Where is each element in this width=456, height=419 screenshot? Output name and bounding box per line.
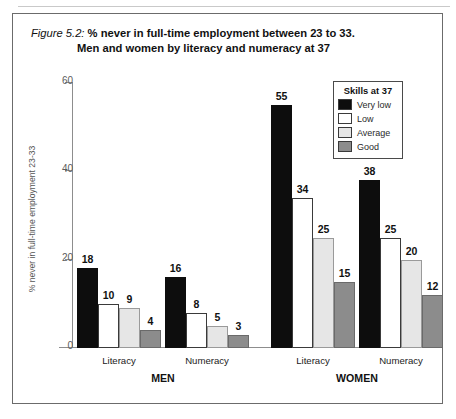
plot-area: 60 40 20 0 % never in full-time employme… <box>13 14 444 405</box>
page-header-rule <box>18 6 450 7</box>
bar-men-literacy-average <box>119 308 140 348</box>
legend-item-average[interactable]: Average <box>338 126 398 139</box>
legend-title: Skills at 37 <box>338 85 398 96</box>
legend-item-low[interactable]: Low <box>338 112 398 125</box>
x-group-label-women: WOMEN <box>307 372 407 384</box>
bar-men-literacy-good <box>140 330 161 348</box>
legend-swatch-very-low-icon <box>338 99 352 110</box>
bar-label-women-numeracy-very-low: 38 <box>359 165 380 177</box>
bar-women-literacy-average <box>313 238 334 348</box>
bar-label-women-literacy-average: 25 <box>313 223 334 235</box>
bar-label-men-literacy-low: 10 <box>98 289 119 301</box>
bar-men-numeracy-very-low <box>165 277 186 348</box>
bar-label-women-numeracy-good: 12 <box>422 280 443 292</box>
bar-women-literacy-good <box>334 282 355 348</box>
x-group-label-men: MEN <box>113 372 213 384</box>
bar-men-numeracy-low <box>186 313 207 348</box>
bar-label-women-literacy-good: 15 <box>334 267 355 279</box>
bar-label-women-literacy-low: 34 <box>292 183 313 195</box>
bar-label-men-literacy-average: 9 <box>119 293 140 305</box>
legend-item-very-low[interactable]: Very low <box>338 98 398 111</box>
bar-men-literacy-very-low <box>77 268 98 348</box>
bar-women-numeracy-very-low <box>359 180 380 348</box>
bar-men-numeracy-average <box>207 326 228 348</box>
x-label-men-numeracy: Numeracy <box>157 355 257 366</box>
legend-item-good[interactable]: Good <box>338 140 398 153</box>
bar-men-literacy-low <box>98 304 119 348</box>
bar-label-men-numeracy-low: 8 <box>186 298 207 310</box>
legend-swatch-good-icon <box>338 141 352 152</box>
bar-label-women-literacy-very-low: 55 <box>271 90 292 102</box>
legend-label-average: Average <box>357 128 390 138</box>
legend-swatch-low-icon <box>338 113 352 124</box>
bar-label-men-numeracy-average: 5 <box>207 311 228 323</box>
legend-swatch-average-icon <box>338 127 352 138</box>
legend-label-very-low: Very low <box>357 100 391 110</box>
legend: Skills at 37 Very low Low Average Good <box>333 81 403 159</box>
bar-women-numeracy-low <box>380 238 401 348</box>
bar-women-numeracy-average <box>401 260 422 348</box>
bar-men-numeracy-good <box>228 335 249 348</box>
bar-women-numeracy-good <box>422 295 443 348</box>
figure-container: Figure 5.2: % never in full-time employm… <box>12 13 443 404</box>
bar-label-men-numeracy-good: 3 <box>228 320 249 332</box>
x-label-men-literacy: Literacy <box>69 355 169 366</box>
bar-label-men-literacy-good: 4 <box>140 315 161 327</box>
x-label-women-literacy: Literacy <box>263 355 363 366</box>
bar-label-men-literacy-very-low: 18 <box>77 253 98 265</box>
bar-label-men-numeracy-very-low: 16 <box>165 262 186 274</box>
x-label-women-numeracy: Numeracy <box>351 355 451 366</box>
bars-layer: 18 10 9 4 16 8 5 3 55 <box>13 14 444 348</box>
legend-label-good: Good <box>357 142 379 152</box>
bar-label-women-numeracy-low: 25 <box>380 223 401 235</box>
bar-label-women-numeracy-average: 20 <box>401 245 422 257</box>
legend-label-low: Low <box>357 114 374 124</box>
bar-women-literacy-low <box>292 198 313 348</box>
bar-women-literacy-very-low <box>271 105 292 348</box>
figure-screenshot: Figure 5.2: % never in full-time employm… <box>0 0 456 419</box>
